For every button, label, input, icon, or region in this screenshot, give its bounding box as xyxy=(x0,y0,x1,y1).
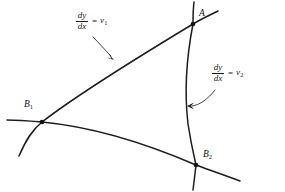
point-label-b2: B2 xyxy=(203,150,212,160)
equals-sign-2: = xyxy=(228,69,233,78)
fraction-dy-dx-1: dy dx xyxy=(76,11,88,32)
point-marker-b1 xyxy=(40,120,45,125)
point-label-a-base: A xyxy=(199,8,205,18)
fraction-numerator-2: dy xyxy=(213,63,224,73)
leader-line-v2 xyxy=(192,90,215,106)
figure-canvas: dy dx = v1 dy dx = v2 A B1 B2 xyxy=(0,0,285,192)
equals-sign-1: = xyxy=(92,17,97,26)
fraction-dy-dx-2: dy dx xyxy=(212,63,224,84)
fraction-numerator-1: dy xyxy=(77,11,88,21)
point-label-b1-subscript: 1 xyxy=(30,103,33,110)
diagram-svg xyxy=(0,0,285,192)
point-marker-b2 xyxy=(194,163,199,168)
point-marker-a xyxy=(191,22,196,27)
curve-upper xyxy=(19,11,218,156)
point-label-b2-subscript: 2 xyxy=(209,153,212,160)
slope-value-1: v1 xyxy=(100,16,107,26)
slope-value-2: v2 xyxy=(236,68,243,78)
point-label-a: A xyxy=(199,9,205,19)
slope-label-v2: dy dx = v2 xyxy=(212,63,244,84)
point-label-b1: B1 xyxy=(24,100,33,110)
slope-value-subscript-2: 2 xyxy=(240,71,243,78)
slope-value-subscript-1: 1 xyxy=(104,19,107,26)
fraction-denominator-2: dx xyxy=(213,74,224,84)
fraction-denominator-1: dx xyxy=(77,22,88,32)
leader-arrowhead-v1 xyxy=(107,53,115,60)
leader-line-v1 xyxy=(93,37,111,56)
slope-label-v1: dy dx = v1 xyxy=(76,11,108,32)
